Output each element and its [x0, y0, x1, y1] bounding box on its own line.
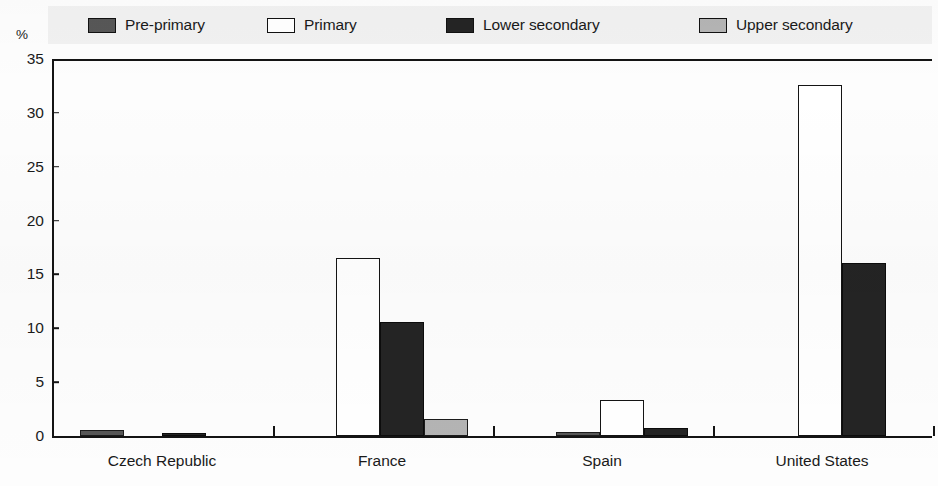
y-axis-tick-mark [52, 274, 59, 276]
x-axis-group-tick [713, 426, 715, 436]
bar-primary [600, 400, 644, 436]
legend-label-lower-secondary: Lower secondary [483, 16, 600, 34]
x-axis-category-label: United States [775, 452, 868, 470]
legend-label-primary: Primary [304, 16, 357, 34]
y-axis-tick-label: 10 [14, 319, 44, 337]
bar-chart-figure: Pre-primary Primary Lower secondary Uppe… [0, 0, 938, 486]
y-axis: 05101520253035 [0, 0, 44, 486]
x-axis-group-tick [493, 426, 495, 436]
y-axis-tick-mark [52, 166, 59, 168]
legend-swatch-pre-primary [88, 18, 116, 33]
y-axis-tick-mark [52, 220, 59, 222]
bar-lower-sec [380, 322, 424, 436]
y-axis-tick-label: 0 [14, 427, 44, 445]
legend-entry-lower-secondary: Lower secondary [446, 16, 600, 34]
bar-primary [336, 258, 380, 436]
x-axis-group-tick [273, 426, 275, 436]
legend-entry-upper-secondary: Upper secondary [699, 16, 853, 34]
y-axis-tick-label: 5 [14, 373, 44, 391]
legend-entry-primary: Primary [267, 16, 357, 34]
legend-swatch-primary [267, 18, 295, 33]
x-axis-category-label: France [358, 452, 406, 470]
legend-entry-pre-primary: Pre-primary [88, 16, 205, 34]
y-axis-tick-label: 15 [14, 265, 44, 283]
y-axis-tick-mark [52, 327, 59, 329]
bar-lower-sec [842, 263, 886, 436]
legend-label-upper-secondary: Upper secondary [736, 16, 853, 34]
bar-upper-sec [424, 419, 468, 436]
y-axis-tick-mark [52, 112, 59, 114]
y-axis-tick-label: 20 [14, 212, 44, 230]
legend-swatch-lower-secondary [446, 18, 474, 33]
plot-area [52, 59, 932, 436]
x-axis-category-label: Czech Republic [108, 452, 217, 470]
y-axis-tick-label: 25 [14, 158, 44, 176]
y-axis-tick-label: 30 [14, 104, 44, 122]
legend-swatch-upper-secondary [699, 18, 727, 33]
x-axis-group-tick [933, 426, 935, 436]
plot-bars-layer [54, 61, 932, 436]
x-axis-category-label: Spain [582, 452, 622, 470]
x-axis-line [52, 436, 932, 438]
y-axis-tick-mark [52, 381, 59, 383]
y-axis-tick-label: 35 [14, 50, 44, 68]
bar-lower-sec [644, 428, 688, 436]
bar-primary [798, 85, 842, 436]
chart-legend: Pre-primary Primary Lower secondary Uppe… [48, 6, 932, 44]
legend-label-pre-primary: Pre-primary [125, 16, 205, 34]
